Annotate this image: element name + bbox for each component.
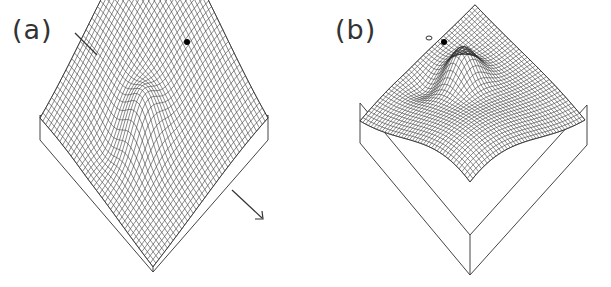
peak-marker-dot xyxy=(184,39,190,45)
panel-b: (b) xyxy=(305,0,610,287)
surface-plot-a xyxy=(0,0,305,287)
peak-marker-dot xyxy=(441,39,447,45)
surface-plot-b xyxy=(305,0,611,287)
mesh-surface xyxy=(360,5,585,182)
white-marker xyxy=(426,36,432,40)
direction-arrow xyxy=(232,190,262,218)
panel-a: (a) xyxy=(0,0,305,287)
mesh-surface xyxy=(40,0,268,267)
